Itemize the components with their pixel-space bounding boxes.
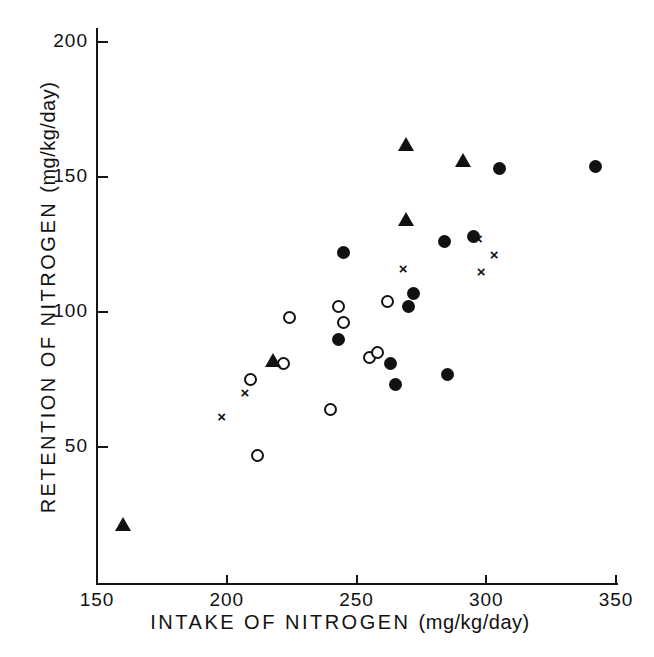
- data-point-open-circle: [283, 311, 296, 324]
- x-axis-title-units: (mg/kg/day): [419, 611, 530, 633]
- x-tick-250: [356, 575, 358, 585]
- data-point-cross: ×: [215, 410, 229, 424]
- data-point-filled-circle: [441, 368, 454, 381]
- x-tick-label-300: 300: [451, 589, 521, 611]
- data-point-open-circle: [371, 346, 384, 359]
- x-tick-200: [226, 575, 228, 585]
- y-tick-150: [98, 176, 108, 178]
- data-point-filled-circle: [493, 162, 506, 175]
- data-point-open-circle: [332, 300, 345, 313]
- y-tick-50: [98, 446, 108, 448]
- data-point-triangle: [115, 517, 131, 531]
- data-point-filled-circle: [438, 235, 451, 248]
- y-axis-title-units: (mg/kg/day): [37, 82, 59, 193]
- data-point-filled-circle: [337, 246, 350, 259]
- y-axis-title: RETENTION OF NITROGEN (mg/kg/day): [37, 38, 60, 558]
- x-tick-150: [96, 575, 98, 585]
- x-tick-label-200: 200: [192, 589, 262, 611]
- data-point-filled-circle: [332, 333, 345, 346]
- x-axis-title: INTAKE OF NITROGEN (mg/kg/day): [60, 611, 620, 634]
- y-axis-title-text: RETENTION OF NITROGEN: [37, 201, 59, 514]
- data-point-cross: ×: [487, 248, 501, 262]
- y-axis-line: [96, 28, 98, 585]
- data-point-filled-circle: [384, 357, 397, 370]
- data-point-cross: ×: [238, 386, 252, 400]
- data-point-filled-circle: [589, 160, 602, 173]
- x-tick-label-350: 350: [581, 589, 651, 611]
- x-tick-label-150: 150: [62, 589, 132, 611]
- data-point-triangle: [265, 353, 281, 367]
- data-point-triangle: [398, 137, 414, 151]
- x-axis-title-text: INTAKE OF NITROGEN: [150, 611, 410, 633]
- y-tick-100: [98, 311, 108, 313]
- x-tick-300: [485, 575, 487, 585]
- data-point-filled-circle: [407, 287, 420, 300]
- data-point-triangle: [398, 212, 414, 226]
- data-point-filled-circle: [389, 378, 402, 391]
- data-point-cross: ×: [471, 232, 485, 246]
- data-point-open-circle: [324, 403, 337, 416]
- data-point-cross: ×: [396, 262, 410, 276]
- data-point-open-circle: [381, 295, 394, 308]
- data-point-open-circle: [337, 316, 350, 329]
- data-point-open-circle: [251, 449, 264, 462]
- x-tick-label-250: 250: [322, 589, 392, 611]
- data-point-triangle: [455, 153, 471, 167]
- data-point-filled-circle: [402, 300, 415, 313]
- scatter-chart-figure: 50100150200 150200250300350 RETENTION OF…: [0, 0, 654, 657]
- y-tick-200: [98, 41, 108, 43]
- data-point-cross: ×: [474, 265, 488, 279]
- x-tick-350: [615, 575, 617, 585]
